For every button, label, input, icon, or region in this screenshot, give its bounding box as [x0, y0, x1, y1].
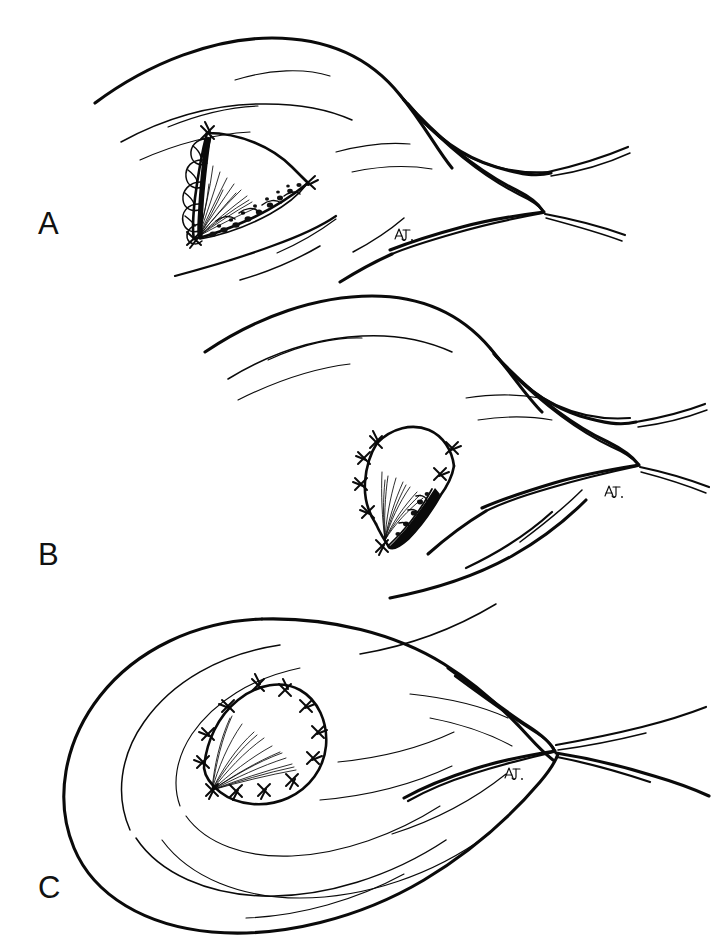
panel-c-edema-arc-3	[176, 668, 300, 806]
panel-b-lateral-upper-tail	[636, 404, 705, 422]
panel-c-canthus-lower-inner	[408, 752, 554, 801]
panel-b-brow-crease-3	[268, 338, 362, 360]
panel-a-wound	[183, 122, 318, 248]
panel-c-signature	[505, 768, 523, 780]
panel-b-suture-7	[434, 468, 449, 480]
panel-b-cheek-crease	[520, 490, 582, 542]
panel-b-signature	[605, 486, 623, 498]
panel-c-lateral-upper-tail	[556, 707, 706, 745]
figure-root: A B C	[0, 0, 713, 949]
panel-b-canthus-inner-edge	[504, 366, 639, 465]
panel-b-brow-crease-2	[238, 364, 350, 400]
panel-a-signature	[395, 229, 413, 241]
panel-b-drawing	[205, 296, 709, 654]
panel-c-suture-10	[194, 756, 209, 768]
panel-a-lobule-detail-3	[185, 193, 194, 204]
panel-c-edema-arc-6	[338, 732, 454, 762]
panel-b-brow-crease-1	[228, 336, 452, 379]
panel-a-suture-superior	[201, 122, 214, 139]
panel-b-wound	[353, 427, 461, 555]
panel-b-lateral-lower-tail	[640, 467, 709, 487]
panel-b-lid-crease-5	[478, 417, 552, 420]
panel-c-edema-arc-1	[122, 645, 280, 830]
panel-a-upper-lid-fold	[400, 95, 548, 172]
panel-c-suture-6	[286, 774, 298, 789]
panel-a-wound-superior-edge	[207, 133, 308, 183]
panel-a-lateral-lower-tail	[545, 214, 625, 235]
panel-c-drawing	[64, 619, 709, 933]
panel-c-edema-arc-2	[136, 838, 446, 896]
panel-c-fan-hatching	[212, 716, 296, 790]
illustration-canvas	[0, 0, 713, 949]
panel-b-flap-superior-edge	[377, 427, 454, 466]
panel-b-lateral-upper-tail-2	[638, 410, 707, 427]
panel-a-lid-crease-6	[352, 167, 432, 172]
panel-a-lobule-detail-2	[188, 170, 197, 181]
panel-c-suture-2	[279, 679, 291, 696]
panel-c-suture-7	[258, 784, 270, 799]
panel-c-lateral-lower-tail	[556, 753, 709, 796]
panel-label-b: B	[38, 539, 59, 570]
panel-a-lower-canthus-limb	[340, 254, 392, 282]
panel-b-upper-canthus-limb	[496, 356, 636, 424]
panel-a-upper-canthus-limb	[408, 104, 551, 175]
panel-c-edema-arc-8	[410, 694, 508, 718]
panel-b-suture-5	[376, 540, 388, 555]
panel-c-outer-contour	[64, 619, 558, 933]
panel-c-outer-contour-upper	[262, 619, 553, 760]
panel-b-lower-canthus-limb	[428, 511, 486, 554]
panel-a-lateral-upper-tail-2	[551, 153, 630, 176]
panel-a-brow-crease-4	[235, 71, 330, 80]
panel-a-canthus-lower-inner	[392, 213, 543, 254]
panel-a-canthus-upper-edge	[404, 100, 543, 211]
panel-b-suture-2	[356, 452, 370, 464]
panel-c-wound	[194, 674, 327, 804]
panel-label-c: C	[38, 872, 61, 903]
panel-a-lid-crease-5	[336, 143, 410, 152]
panel-c-edema-arc-9	[430, 718, 512, 746]
panel-label-a: A	[38, 208, 59, 239]
panel-c-suture-5	[307, 752, 322, 764]
panel-a-drawing	[95, 38, 630, 282]
panel-b-lower-lid-crease-1	[360, 604, 496, 654]
panel-a-lower-lid-crease-2	[277, 219, 336, 253]
panel-a-suture-lateral	[301, 176, 318, 189]
panel-a-upper-lid-contour	[95, 38, 452, 168]
panel-b-upper-lid-contour	[205, 296, 542, 412]
panel-a-lobule-detail-1	[193, 146, 201, 157]
panel-b-canthus-lower-inner	[486, 466, 638, 511]
